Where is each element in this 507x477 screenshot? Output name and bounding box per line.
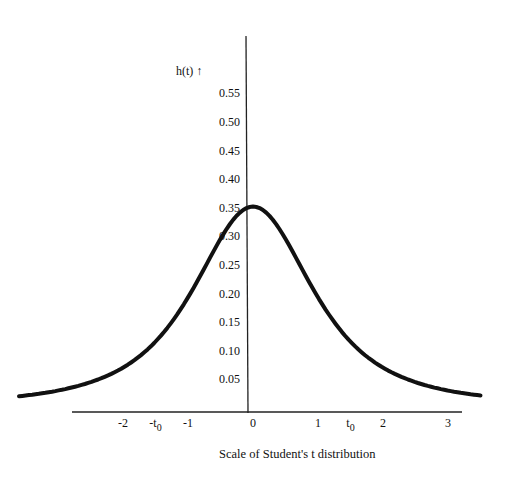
x-tick-label: 1 bbox=[315, 416, 321, 430]
y-tick-label: 0.45 bbox=[219, 144, 240, 158]
y-tick-label: 0.15 bbox=[219, 315, 240, 329]
y-tick-label: 0.40 bbox=[219, 172, 240, 186]
x-tick-labels: -2-t0-101t023 bbox=[118, 416, 451, 433]
y-tick-label: 0.35 bbox=[219, 201, 240, 215]
y-tick-label: 0.55 bbox=[219, 86, 240, 100]
density-curve bbox=[19, 207, 481, 397]
y-tick-label: 0.05 bbox=[219, 372, 240, 386]
x-tick-label: 0 bbox=[250, 416, 256, 430]
x-tick-label: 2 bbox=[380, 416, 386, 430]
y-axis-label: h(t) ↑ bbox=[176, 64, 202, 78]
x-tick-label: -t0 bbox=[149, 416, 161, 433]
x-tick-label: -2 bbox=[118, 416, 128, 430]
x-tick-label: t0 bbox=[346, 416, 354, 433]
x-tick-label: -1 bbox=[183, 416, 193, 430]
y-tick-label: 0.20 bbox=[219, 287, 240, 301]
y-axis bbox=[246, 36, 248, 413]
y-tick-label: 0.50 bbox=[219, 115, 240, 129]
x-axis-label: Scale of Student's t distribution bbox=[219, 447, 376, 461]
y-tick-label: 0.25 bbox=[219, 258, 240, 272]
y-tick-label: 0.10 bbox=[219, 344, 240, 358]
x-tick-label: 3 bbox=[445, 416, 451, 430]
t-distribution-chart: h(t) ↑ 0.050.100.150.200.250.300.350.400… bbox=[0, 0, 507, 477]
